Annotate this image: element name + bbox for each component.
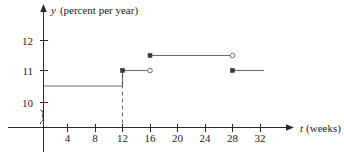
step-function-chart: 12 11 10 y(percent per year) 4 — [0, 0, 344, 157]
x-tick-label-8: 8 — [92, 132, 98, 144]
y-axis-title: y(percent per year) — [50, 4, 138, 17]
y-axis-arrow-icon — [40, 4, 47, 12]
x-axis-title: t(weeks) — [300, 122, 341, 135]
y-tick-label-10: 10 — [22, 97, 34, 109]
x-tick-label-32: 32 — [255, 132, 266, 144]
endpoint-open-t16-y11 — [148, 68, 153, 73]
y-axis-group: 12 11 10 y(percent per year) — [22, 4, 138, 152]
y-axis-symbol: y — [50, 4, 56, 16]
chart-canvas: 12 11 10 y(percent per year) 4 — [0, 0, 344, 157]
y-tick-label-12: 12 — [22, 35, 33, 47]
x-axis-arrow-icon — [286, 124, 294, 131]
x-axis-group: 4 8 12 16 20 24 28 32 t(weeks) — [8, 122, 341, 145]
y-tick-label-11: 11 — [22, 65, 33, 77]
x-axis-unit: (weeks) — [306, 122, 341, 135]
axis-break-icon — [40, 110, 43, 124]
x-tick-label-24: 24 — [200, 132, 212, 144]
x-tick-label-28: 28 — [227, 132, 239, 144]
step-function-series — [44, 53, 264, 127]
y-axis-unit: (percent per year) — [60, 4, 139, 17]
endpoint-closed-t16-y115 — [148, 54, 152, 58]
x-tick-label-4: 4 — [65, 132, 71, 144]
x-axis-symbol: t — [300, 122, 304, 134]
endpoint-closed-t28-y11 — [231, 69, 235, 73]
endpoint-closed-t12-y11 — [121, 69, 125, 73]
x-tick-label-12: 12 — [117, 132, 128, 144]
x-tick-label-16: 16 — [145, 132, 157, 144]
x-tick-label-20: 20 — [172, 132, 184, 144]
endpoint-open-t28-y115 — [230, 53, 235, 58]
